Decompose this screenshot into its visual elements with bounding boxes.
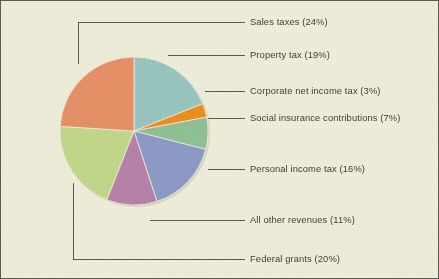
pie-chart-figure: Sales taxes (24%) Property tax (19%) Cor… xyxy=(0,0,439,279)
callout-label-all-other-revenues: All other revenues (11%) xyxy=(250,214,355,225)
pie-chart-canvas xyxy=(1,1,439,279)
callout-label-federal-grants: Federal grants (20%) xyxy=(250,253,340,264)
pie-slices xyxy=(60,57,208,205)
callout-label-corporate-net-income-tax: Corporate net income tax (3%) xyxy=(250,85,381,96)
leader-line-sales-taxes xyxy=(78,22,245,64)
callout-label-property-tax: Property tax (19%) xyxy=(250,49,330,60)
callout-label-social-insurance-contributions: Social insurance contributions (7%) xyxy=(250,112,400,123)
pie-slice-sales-taxes[interactable] xyxy=(60,57,134,131)
callout-label-sales-taxes: Sales taxes (24%) xyxy=(250,16,328,27)
callout-label-personal-income-tax: Personal income tax (16%) xyxy=(250,163,365,174)
